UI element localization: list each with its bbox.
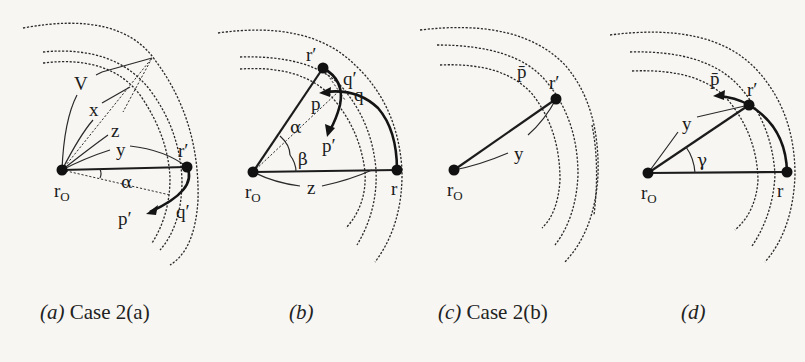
panel-c: p̄ r′ y rO [420, 28, 598, 262]
panel-d: p̄ r′ y γ rO r [592, 32, 795, 262]
label-alpha: α [121, 172, 133, 192]
label-r-prime: r′ [306, 44, 316, 65]
label-r: r [777, 180, 784, 201]
label-p-bar: p̄ [517, 61, 527, 82]
leader-v [62, 95, 77, 170]
node-r [782, 167, 793, 178]
label-p-prime: p′ [118, 208, 132, 229]
node-r-origin [57, 165, 68, 176]
dashed-arc-outer [610, 32, 795, 262]
caption-d: (d) [681, 300, 706, 325]
label-beta: β [298, 149, 308, 169]
arrow-head-icon [146, 205, 158, 215]
arrow-head-icon [319, 87, 331, 97]
label-p: p [311, 93, 321, 114]
label-p-prime: p′ [322, 135, 336, 156]
node-r-prime [551, 94, 562, 105]
dashed-arc-inner [440, 65, 560, 228]
label-y: y [682, 113, 692, 134]
caption-c-prefix: (c) [438, 300, 461, 324]
label-r-prime: r′ [178, 140, 188, 161]
label-p-bar: p̄ [710, 68, 720, 89]
angle-beta-arc [290, 155, 296, 172]
caption-c: (c) Case 2(b) [438, 300, 548, 325]
leader-v-tick [96, 72, 102, 75]
caption-d-prefix: (d) [681, 300, 706, 324]
label-r-origin: rO [245, 181, 261, 205]
angle-gamma-arc [686, 147, 695, 173]
dashed-angle-line [62, 170, 170, 195]
leader-z-left [253, 172, 300, 186]
node-r [392, 165, 403, 176]
label-z: z [307, 177, 315, 198]
figure: V x z y α rO r′ p′ q′ r′ [0, 0, 805, 362]
edge-ro-rprime [62, 167, 187, 170]
edge-ro-r [253, 170, 397, 172]
node-r-prime [318, 63, 329, 74]
label-x: x [89, 99, 99, 120]
leader-v-top [102, 58, 152, 72]
label-y: y [514, 143, 524, 164]
angle-alpha-arc [100, 169, 101, 178]
label-alpha: α [290, 117, 302, 137]
node-r-origin [449, 165, 460, 176]
dashed-arc-outer [420, 28, 598, 262]
caption-a-prefix: (a) [40, 300, 65, 324]
label-r-prime: r′ [549, 72, 559, 93]
caption-a: (a) Case 2(a) [40, 300, 150, 325]
dashed-connector [123, 58, 152, 112]
leader-y-left [648, 132, 678, 173]
dashed-arc-inner [43, 62, 170, 243]
label-r-origin: rO [54, 180, 70, 204]
edge-ro-rprime [253, 68, 323, 172]
label-r-prime: r′ [747, 79, 757, 100]
panel-b: r′ q′ q p α β p′ z rO r [218, 30, 403, 262]
panel-a: V x z y α rO r′ p′ q′ [23, 23, 198, 265]
edge-ro-rprime [454, 99, 556, 170]
leader-x-top [102, 87, 130, 103]
label-q: q [354, 84, 364, 105]
label-z: z [111, 120, 119, 141]
caption-b: (b) [289, 300, 314, 325]
dashed-arc-inner [632, 71, 758, 230]
caption-b-prefix: (b) [289, 300, 314, 324]
label-r-origin: rO [641, 182, 657, 206]
label-v: V [74, 73, 88, 94]
label-gamma: γ [697, 150, 707, 170]
node-r-origin [643, 168, 654, 179]
node-r-origin [248, 167, 259, 178]
caption-a-text: Case 2(a) [70, 300, 150, 324]
label-r: r [391, 178, 398, 199]
label-r-origin: rO [447, 179, 463, 203]
node-r-prime [182, 162, 193, 173]
label-q-prime: q′ [176, 201, 190, 222]
edge-ro-r [648, 172, 787, 173]
node-r-prime [744, 100, 755, 111]
label-y: y [116, 139, 126, 160]
leader-y-left [62, 150, 110, 170]
caption-c-text: Case 2(b) [467, 300, 548, 324]
leader-y-left [454, 153, 508, 170]
